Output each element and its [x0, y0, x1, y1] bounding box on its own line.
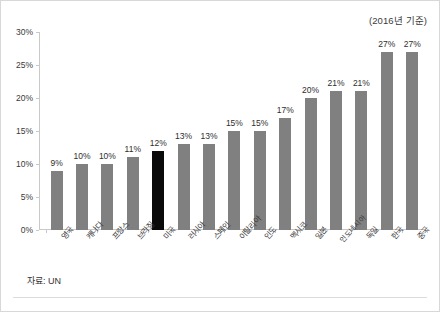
- y-axis-tick-label: 5%: [3, 192, 33, 202]
- bar-item[interactable]: 27%: [376, 32, 397, 230]
- bar[interactable]: [203, 144, 215, 230]
- bar-item[interactable]: 12%: [148, 32, 169, 230]
- bar-value-label: 21%: [327, 78, 344, 88]
- bar-item[interactable]: 15%: [224, 32, 245, 230]
- y-axis-tick-mark: [36, 197, 39, 198]
- bar-item[interactable]: 10%: [71, 32, 92, 230]
- bar[interactable]: [127, 157, 139, 230]
- bar-item[interactable]: 13%: [173, 32, 194, 230]
- bar-item[interactable]: 21%: [351, 32, 372, 230]
- bar-item[interactable]: 20%: [300, 32, 321, 230]
- bar-series: 9%10%10%11%12%13%13%15%15%17%20%21%21%27…: [40, 32, 425, 230]
- bar[interactable]: [228, 131, 240, 230]
- bar-value-label: 15%: [251, 118, 268, 128]
- y-axis-tick-label: 0%: [3, 225, 33, 235]
- y-axis-tick-mark: [36, 131, 39, 132]
- bar-value-label: 21%: [353, 78, 370, 88]
- bar-value-label: 11%: [125, 144, 141, 154]
- y-axis-tick-mark: [36, 32, 39, 33]
- footer-divider: [13, 297, 427, 298]
- bar-item[interactable]: 10%: [97, 32, 118, 230]
- bar[interactable]: [305, 98, 317, 230]
- y-axis-tick-label: 20%: [3, 93, 33, 103]
- bar-value-label: 17%: [277, 105, 294, 115]
- y-axis-tick-mark: [36, 98, 39, 99]
- bar-item[interactable]: 27%: [402, 32, 423, 230]
- y-axis-tick-label: 30%: [3, 27, 33, 37]
- bar-value-label: 9%: [50, 158, 62, 168]
- bar-value-label: 13%: [175, 131, 192, 141]
- bar[interactable]: [152, 151, 164, 230]
- y-axis-tick-mark: [36, 164, 39, 165]
- y-axis-tick-mark: [36, 65, 39, 66]
- bar-item[interactable]: 15%: [249, 32, 270, 230]
- bar-value-label: 10%: [99, 151, 116, 161]
- chart-figure: (2016년 기준) 0%5%10%15%20%25%30% 9%10%10%1…: [0, 0, 440, 312]
- bar[interactable]: [381, 52, 393, 230]
- bar-item[interactable]: 13%: [198, 32, 219, 230]
- bar-item[interactable]: 11%: [122, 32, 143, 230]
- bar-value-label: 13%: [200, 131, 217, 141]
- x-axis-category-labels: 영국캐나다프랑스브라질미국러시아스페인이탈리아인도멕시코일본인도네시아독일한국중…: [40, 232, 426, 272]
- bar-value-label: 27%: [404, 39, 421, 49]
- bar[interactable]: [355, 91, 367, 230]
- y-axis-tick-label: 25%: [3, 60, 33, 70]
- bar[interactable]: [76, 164, 88, 230]
- y-axis-tick-label: 15%: [3, 126, 33, 136]
- bar-item[interactable]: 17%: [275, 32, 296, 230]
- chart-subtitle-annotation: (2016년 기준): [369, 13, 427, 27]
- y-axis-tick-mark: [36, 230, 39, 231]
- bar-value-label: 12%: [150, 138, 167, 148]
- y-axis-tick-label: 10%: [3, 159, 33, 169]
- bar[interactable]: [406, 52, 418, 230]
- bar-value-label: 27%: [378, 39, 395, 49]
- source-note: 자료: UN: [27, 274, 61, 287]
- bar-item[interactable]: 9%: [46, 32, 67, 230]
- bar[interactable]: [330, 91, 342, 230]
- bar-value-label: 15%: [226, 118, 243, 128]
- x-axis-end-slot: [427, 32, 440, 230]
- bar[interactable]: [51, 171, 63, 230]
- bar-value-label: 20%: [302, 85, 319, 95]
- plot-area: 0%5%10%15%20%25%30% 9%10%10%11%12%13%13%…: [39, 32, 425, 230]
- bar[interactable]: [178, 144, 190, 230]
- bar-value-label: 10%: [73, 151, 90, 161]
- bar-item[interactable]: 21%: [325, 32, 346, 230]
- bar[interactable]: [279, 118, 291, 230]
- bar[interactable]: [101, 164, 113, 230]
